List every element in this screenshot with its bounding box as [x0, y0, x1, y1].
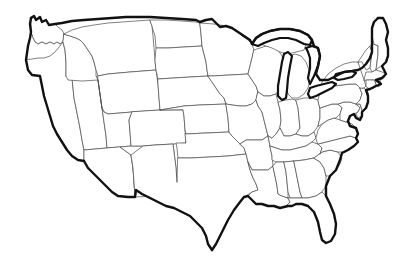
state-ND [150, 20, 202, 48]
state-MN [200, 23, 254, 76]
state-OH [296, 98, 320, 136]
state-SD [155, 46, 208, 79]
state-WY [98, 70, 160, 114]
us-outline-map [0, 0, 394, 268]
state-CO [129, 110, 186, 146]
us-map-svg [0, 0, 394, 268]
